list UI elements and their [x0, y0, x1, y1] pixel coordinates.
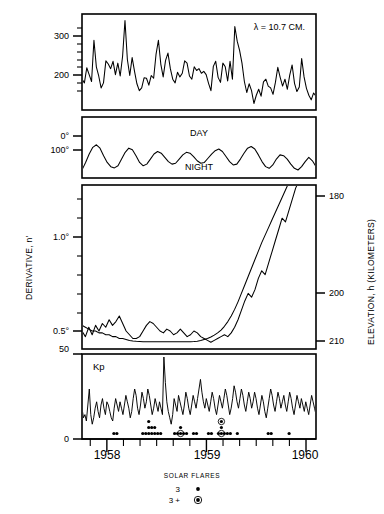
solar-flare-markers — [112, 418, 290, 436]
solar-flare-dot-icon — [220, 426, 223, 429]
solar-flare-dot-icon — [141, 432, 144, 435]
solar-flare-dot-icon — [185, 432, 188, 435]
kp-panel: 50 0 Kp — [59, 344, 316, 444]
solar-flux-ytick-200: 200 — [54, 70, 69, 80]
day-night-panel: 0° 100° DAY NIGHT — [50, 117, 316, 178]
solar-flare-dot-icon — [210, 432, 213, 435]
legend-label-class-3: 3 — [176, 485, 181, 494]
derivative-observed-series — [82, 152, 316, 342]
solar-flare-dot-icon — [179, 426, 182, 429]
solar-flare-dot-icon — [192, 432, 195, 435]
solar-flare-dot-icon — [159, 432, 162, 435]
solar-flare-dot-icon — [288, 432, 291, 435]
solar-flare-dot-icon — [236, 432, 239, 435]
x-tick-label-1958: 1958 — [94, 448, 121, 462]
solar-flare-dot-icon — [207, 432, 210, 435]
solar-flare-dot-icon — [150, 432, 153, 435]
solar-flare-dot-icon — [179, 432, 182, 435]
solar-flare-dot-icon — [150, 426, 153, 429]
legend-title: SOLAR FLARES — [164, 472, 220, 479]
elevation-ytick-180: 180 — [329, 191, 344, 201]
solar-flare-dot-icon — [195, 432, 198, 435]
kp-series — [82, 357, 316, 424]
solar-flare-dot-icon — [153, 426, 156, 429]
chart-svg: 300 200 λ = 10.7 CM. 0° 100° DAY NIGHT 1… — [0, 0, 384, 514]
solar-flare-dot-icon — [147, 426, 150, 429]
solar-flare-dot-icon — [112, 432, 115, 435]
solar-flare-dot-icon — [182, 432, 185, 435]
day-night-ytick-100: 100° — [50, 145, 69, 155]
solar-flare-dot-icon — [270, 432, 273, 435]
derivative-ytick-1: 1.0° — [53, 232, 70, 242]
wavelength-annotation: λ = 10.7 CM. — [254, 22, 305, 32]
solar-flare-dot-icon — [229, 432, 232, 435]
solar-flare-dot-icon — [147, 432, 150, 435]
legend-label-class-3plus: 3 + — [169, 496, 181, 505]
kp-ytick-0: 0 — [64, 434, 69, 444]
x-tick-label-1960: 1960 — [292, 448, 319, 462]
derivative-ytick-05: 0.5° — [53, 326, 70, 336]
solar-flare-dot-icon — [153, 432, 156, 435]
x-axis: 1958 1959 1960 — [82, 439, 319, 462]
solar-flare-dot-icon — [156, 432, 159, 435]
solar-flare-dot-icon — [220, 420, 223, 423]
solar-flares-legend: SOLAR FLARES 3 3 + — [164, 472, 220, 505]
elevation-axis-title: ELEVATION, h (KILOMETERS) — [366, 219, 376, 345]
figure-root: 300 200 λ = 10.7 CM. 0° 100° DAY NIGHT 1… — [0, 0, 384, 514]
solar-flare-dot-icon — [220, 432, 223, 435]
legend-dot-icon — [196, 487, 200, 491]
derivative-axis-title: DERIVATIVE, n' — [24, 235, 34, 300]
derivative-plot-frame — [82, 185, 316, 349]
day-night-ytick-0: 0° — [60, 131, 69, 141]
day-label: DAY — [190, 128, 208, 138]
solar-flux-ytick-300: 300 — [54, 31, 69, 41]
x-tick-label-1959: 1959 — [194, 448, 221, 462]
solar-flare-dot-icon — [115, 432, 118, 435]
solar-flare-dot-icon — [223, 432, 226, 435]
kp-ytick-50: 50 — [59, 344, 69, 354]
solar-flare-dot-icon — [147, 420, 150, 423]
legend-circled-dot-icon — [196, 498, 200, 502]
solar-flux-series — [82, 21, 316, 104]
solar-flare-dot-icon — [267, 432, 270, 435]
kp-plot-frame — [82, 354, 316, 439]
solar-flare-dot-icon — [144, 432, 147, 435]
solar-flare-dot-icon — [173, 432, 176, 435]
kp-annotation: Kp — [93, 361, 105, 372]
elevation-ytick-210: 210 — [329, 336, 344, 346]
night-label: NIGHT — [185, 162, 214, 172]
solar-flare-dot-icon — [226, 432, 229, 435]
solar-flux-panel: 300 200 λ = 10.7 CM. — [54, 14, 316, 110]
elevation-ytick-200: 200 — [329, 288, 344, 298]
